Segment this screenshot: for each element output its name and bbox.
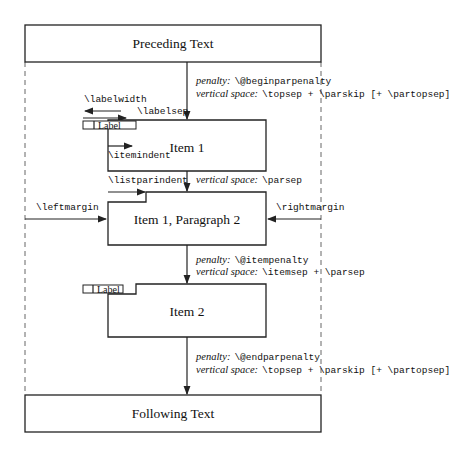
item2-box: Label Item 2 [83,284,266,337]
labelsep-label: \labelsep [137,106,189,117]
rightmargin-label: \rightmargin [276,202,344,213]
following-text-box: Following Text [25,395,321,432]
item1-paragraph2-box: Item 1, Paragraph 2 [108,192,266,245]
leftmargin-label: \leftmargin [36,202,99,213]
svg-text:Item 1, Paragraph 2: Item 1, Paragraph 2 [134,212,240,227]
begin-penalty-annotation: penalty:\@beginparpenalty [195,75,332,87]
begin-space-annotation: vertical space:\topsep + \parskip [+ \pa… [196,88,450,100]
list-layout-diagram: Preceding Text penalty:\@beginparpenalty… [0,0,463,456]
end-space-annotation: vertical space:\topsep + \parskip [+ \pa… [196,364,450,376]
svg-text:Item 2: Item 2 [170,304,205,319]
svg-text:Following Text: Following Text [132,406,215,421]
item-space-annotation: vertical space:\itemsep + \parsep [196,266,365,278]
item-penalty-annotation: penalty:\@itempenalty [195,254,309,266]
svg-text:Preceding Text: Preceding Text [133,36,214,51]
item2-label: Label [97,284,120,295]
item1-label: Label [98,120,121,131]
end-penalty-annotation: penalty:\@endparpenalty [195,351,320,363]
itemindent-label: \itemindent [108,150,171,161]
preceding-text-box: Preceding Text [25,25,321,62]
svg-text:Item 1: Item 1 [170,140,205,155]
labelwidth-label: \labelwidth [84,94,147,105]
parsep-annotation: vertical space:\parsep [196,174,302,186]
listparindent-label: \listparindent [108,175,188,186]
